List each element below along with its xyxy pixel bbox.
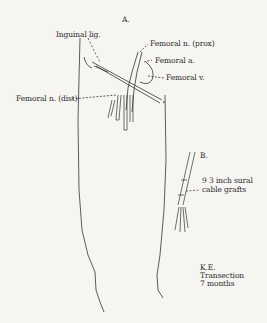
label-grafts-line1: 9 3 inch sural [202, 177, 253, 185]
panel-a-label: A. [122, 16, 130, 24]
label-femoral-a: Femoral a. [155, 57, 195, 65]
leg-outline-right [157, 95, 166, 298]
label-case-months: 7 months [200, 280, 235, 288]
graft-illustration-b [175, 152, 200, 232]
leader-femoral-v [148, 76, 164, 78]
leader-femoral-a [144, 60, 152, 62]
label-inguinal-lig: Inguinal lig. [56, 31, 101, 39]
panel-b-label: B. [200, 152, 208, 160]
leg-outline-left [78, 38, 104, 312]
leader-femoral-n-prox [140, 44, 148, 52]
label-femoral-n-prox: Femoral n. (prox) [150, 40, 215, 48]
label-grafts-line2: cable grafts [202, 186, 246, 194]
inguinal-ligament [88, 38, 100, 62]
nerve-bundle [108, 95, 133, 130]
label-femoral-v: Femoral v. [166, 74, 204, 82]
label-femoral-n-dist: Femoral n. (dist) [16, 95, 78, 103]
